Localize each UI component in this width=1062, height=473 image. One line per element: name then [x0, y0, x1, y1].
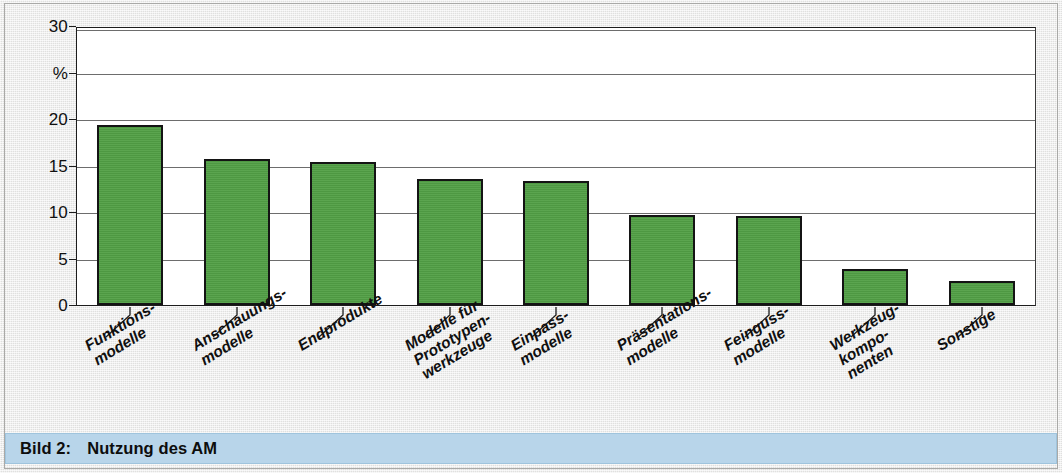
caption-number: Bild 2: [20, 439, 71, 458]
y-axis-tick-mark [69, 73, 76, 74]
x-axis-category-labels: Funktions-modelleAnschauungs-modelleEndp… [0, 306, 1062, 424]
y-axis-tick-label: 20 [12, 111, 68, 128]
y-axis-tick-label: % [12, 65, 68, 82]
figure-caption: Bild 2: Nutzung des AM [5, 433, 1057, 464]
y-axis-tick-label: 5 [12, 251, 68, 268]
bar [204, 159, 270, 305]
caption-title: Nutzung des AM [87, 439, 217, 458]
y-axis-tick-mark [69, 119, 76, 120]
bar [97, 125, 163, 305]
y-axis-tick-label: 10 [12, 204, 68, 221]
y-axis-tick-mark [69, 26, 76, 27]
y-axis-tick-mark [69, 305, 76, 306]
y-axis-tick-mark [69, 166, 76, 167]
bar [310, 162, 376, 305]
y-axis-tick-mark [69, 259, 76, 260]
bar [736, 216, 802, 305]
y-axis-labels: 05101520%30 [8, 27, 68, 306]
bar [417, 179, 483, 305]
bar [842, 269, 908, 305]
y-axis-tick-label: 15 [12, 158, 68, 175]
bar [949, 281, 1015, 305]
y-axis-tick-mark [69, 212, 76, 213]
bar [523, 181, 589, 305]
y-axis-tick-label: 30 [12, 18, 68, 35]
figure-container: 05101520%30 Funktions-modelleAnschauungs… [0, 0, 1062, 473]
bars-layer [77, 28, 1035, 305]
bar [629, 215, 695, 305]
chart-plot-wrapper: 05101520%30 Funktions-modelleAnschauungs… [0, 0, 1062, 424]
